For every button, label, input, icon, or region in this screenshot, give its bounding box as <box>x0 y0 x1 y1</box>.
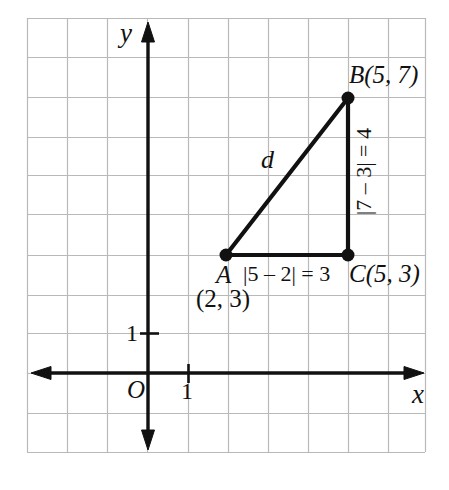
point-a-coordinates-label: (2, 3) <box>196 286 250 311</box>
point-b-label: B(5, 7) <box>349 62 418 87</box>
y-axis-unit-label: 1 <box>126 321 138 345</box>
point-c-label: C(5, 3) <box>349 261 420 286</box>
x-axis-arrow-right <box>404 367 424 380</box>
hypotenuse-label: d <box>261 147 274 173</box>
point-b <box>342 92 355 105</box>
point-a <box>220 249 233 262</box>
x-axis-arrow-left <box>31 367 51 380</box>
vertical-length-label: |7 – 3| = 4 <box>353 128 375 215</box>
segment-ab <box>226 98 348 255</box>
x-axis-label: x <box>412 381 424 408</box>
y-axis-label: y <box>120 20 132 47</box>
y-axis-arrow-up <box>142 22 155 42</box>
y-axis-arrow-down <box>142 430 155 450</box>
x-axis-unit-label: 1 <box>181 379 193 403</box>
point-a-label: A <box>216 262 231 287</box>
base-length-label: |5 – 2| = 3 <box>243 263 330 285</box>
origin-label: O <box>127 377 145 402</box>
triangle-abc <box>226 98 348 255</box>
coordinate-plane-figure: B(5, 7) C(5, 3) A (2, 3) d |5 – 2| = 3 |… <box>0 0 449 490</box>
